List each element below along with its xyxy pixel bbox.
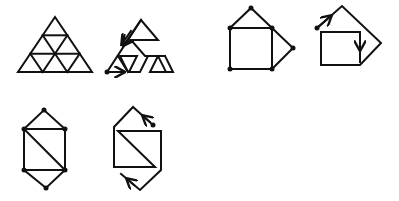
start-dot: [315, 26, 320, 31]
diagram-canvas: [0, 0, 399, 201]
triangle-path-figure: [105, 20, 174, 75]
triangle-grid-figure: [18, 17, 92, 72]
start-dot: [151, 123, 156, 128]
hexagon-graph-figure: [22, 108, 68, 191]
house-graph-figure: [228, 6, 296, 72]
hexagon-path-figure: [114, 107, 161, 190]
house-path-figure: [315, 6, 382, 65]
start-dot: [105, 70, 110, 75]
